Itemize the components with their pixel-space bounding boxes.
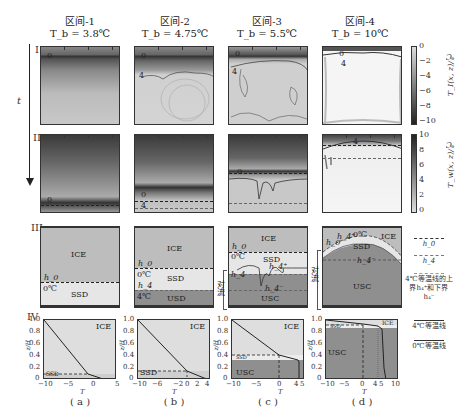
xtick: 0: [185, 380, 189, 388]
xlabel: T: [80, 388, 85, 396]
ssd-label: SSD: [140, 368, 157, 377]
contour-lines: [323, 135, 402, 213]
xtick: −6: [152, 380, 162, 388]
h0-line: [41, 282, 119, 283]
ytick: 0.2: [311, 363, 322, 371]
xtick: −5: [339, 380, 349, 388]
colorbar-tick: 10: [419, 130, 429, 139]
time-arrow-head: [26, 178, 34, 186]
panel-IIb: 0 4: [134, 134, 214, 213]
subfig-label-d: ( d ): [342, 396, 382, 407]
panel-Ic: 0 4: [228, 46, 308, 125]
colorbar-tick: −2: [419, 56, 431, 65]
colorbar-tick: 4: [419, 175, 424, 184]
ssd-label: SSD: [46, 370, 59, 377]
zero-label: 0℃: [43, 284, 57, 293]
legend-iso4-bounds: 4℃等温线的上界h₄⁺和下界h₄⁻: [404, 275, 454, 302]
plot-IVc: ICE SSD USC: [231, 319, 304, 379]
xtick: −10: [320, 380, 335, 388]
ylabel: z/H: [118, 340, 125, 350]
row-label-I: I: [35, 44, 39, 55]
plot-IVa: ICE SSD: [43, 319, 116, 379]
contour-label: 0: [141, 190, 146, 199]
tb-label: T_b = 3.8℃: [25, 28, 135, 40]
legend-iso0: 0℃等温线: [404, 342, 454, 351]
h4l-label: h_4⁻: [265, 284, 283, 293]
panel-Id: 0 4: [322, 46, 402, 125]
usc-label: USC: [353, 282, 371, 291]
panel-IIIb: ICE SSD USD h_0 0℃ h_4 4℃: [134, 226, 214, 308]
legend-iso4-bounds-line: [414, 273, 444, 274]
panel-Ia: 0: [40, 46, 120, 125]
contour-lines: [135, 47, 214, 125]
xlabel: T: [362, 388, 367, 396]
tb-label: T_b = 10℃: [305, 28, 415, 40]
xtick: 5: [300, 380, 304, 388]
ytick: 0.8: [123, 327, 134, 335]
xtick: 5: [379, 380, 383, 388]
xtick: 0: [277, 380, 281, 388]
xtick: 0: [360, 380, 364, 388]
ssd-label: SSD: [353, 242, 370, 251]
panel-IIa: 0: [40, 134, 120, 213]
plot-IVb: ICE SSD: [137, 319, 210, 379]
xtick: −10: [132, 380, 147, 388]
colorbar-tick: 8: [419, 145, 424, 154]
plume-contours: [229, 135, 308, 213]
h0-line: [135, 201, 213, 202]
panel-IIIc: ICE SSD USC h_0 0℃ h_4 h_4⁺ h_4⁻: [228, 226, 308, 308]
ssd-label: SSD: [167, 274, 184, 283]
xtick: −5: [63, 380, 73, 388]
zero-label: 0℃: [137, 270, 151, 279]
tick-marks: [41, 135, 119, 138]
usc-label: USC: [328, 348, 346, 357]
contour-label: 0: [47, 195, 52, 204]
h4-line: [135, 290, 213, 291]
h0-label: h_0: [138, 259, 152, 268]
colorbar-tick: −10: [419, 116, 436, 125]
panel-Ib: 0 4: [134, 46, 214, 125]
subfig-label-b: ( b ): [154, 396, 194, 407]
ice-label: ICE: [261, 234, 276, 243]
ice-label: ICE: [382, 319, 393, 326]
ytick: 0.4: [217, 351, 228, 359]
xtick: 5: [115, 380, 119, 388]
ice-label: ICE: [284, 322, 299, 331]
colorbar-ice-temp: [411, 46, 417, 125]
legend-h4: h_4: [404, 257, 454, 266]
ytick: 0.2: [217, 363, 228, 371]
xtick: 4: [205, 380, 209, 388]
tick-marks: [41, 47, 119, 50]
colorbar-tick: −6: [419, 86, 431, 95]
ytick: 0.4: [29, 351, 40, 359]
colorbar-tick: −4: [419, 71, 431, 80]
legend-h0-line: [414, 238, 444, 239]
colorbar-tick: 2: [419, 190, 424, 199]
subfig-label-a: ( a ): [60, 396, 100, 407]
xtick: −10: [226, 380, 241, 388]
ytick: 0.2: [123, 363, 134, 371]
xtick: 10: [391, 380, 400, 388]
ytick: 0.2: [29, 363, 40, 371]
convection-label-c: 对流: [214, 280, 225, 296]
panel-IIc: 0: [228, 134, 308, 213]
subfig-label-c: ( c ): [248, 396, 288, 407]
h4l-label: h_4⁻: [357, 256, 375, 265]
xtick: −10: [38, 380, 53, 388]
ice-label: ICE: [381, 232, 396, 241]
colorbar-tick: 0: [419, 41, 424, 50]
plot-IVd: ICE SSD USC: [325, 319, 398, 379]
colorbar-title: T_w(x, z)/℃: [446, 140, 455, 188]
interval-label: 区间-4: [305, 16, 415, 28]
ylabel: z/H: [306, 340, 313, 350]
colorbar-tick: 0: [419, 205, 424, 214]
panel-IIIa: ICE SSD h_0 0℃: [40, 226, 120, 308]
contour-lines: [323, 47, 402, 125]
four-label: 4℃: [137, 292, 151, 301]
h0-label: h_0: [44, 273, 58, 282]
ytick: 0.8: [311, 327, 322, 335]
column-title-4: 区间-4 T_b = 10℃: [305, 16, 415, 40]
xtick: 4: [373, 380, 377, 388]
zero-label: 0℃: [231, 252, 245, 261]
time-axis-label: t: [17, 95, 21, 106]
